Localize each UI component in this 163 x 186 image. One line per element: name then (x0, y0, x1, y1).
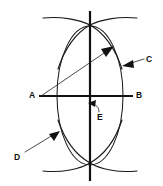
geometric-figure-container: A B C D E (0, 0, 163, 186)
radius-arrow-shaft (41, 49, 110, 96)
label-c: C (146, 55, 152, 64)
leader-arrowhead-c (122, 60, 134, 68)
label-e: E (97, 113, 103, 122)
label-b: B (136, 91, 142, 100)
upper-right-construction-arc (58, 17, 137, 69)
leader-line-d (25, 135, 53, 152)
upper-left-construction-arc (43, 17, 122, 69)
leader-arrowhead-d (49, 131, 60, 141)
label-d: D (14, 153, 20, 162)
label-a: A (29, 91, 35, 100)
radius-arrowhead (101, 46, 114, 57)
